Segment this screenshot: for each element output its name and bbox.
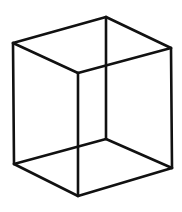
necker-cube-diagram — [0, 0, 182, 212]
cube-edges — [13, 17, 172, 196]
cube-edge-bottom-front-to-bottom-left — [14, 164, 78, 196]
cube-edge-bottom-left-to-bottom-back — [14, 139, 106, 164]
cube-edge-top-left-to-top-back — [13, 17, 106, 43]
cube-edge-bottom-back-to-bottom-right — [106, 139, 172, 168]
cube-edge-top-right-to-bottom-right — [171, 48, 172, 168]
cube-edge-top-front-to-top-left — [13, 43, 78, 73]
cube-edge-top-left-to-bottom-left — [13, 43, 14, 164]
cube-edge-bottom-right-to-bottom-front — [78, 168, 172, 196]
cube-edge-top-back-to-top-right — [106, 17, 171, 48]
cube-edge-top-right-to-top-front — [78, 48, 171, 73]
